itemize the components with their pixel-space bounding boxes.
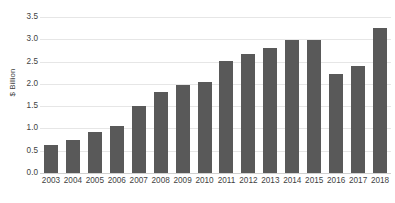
bar: [198, 82, 212, 173]
x-axis-tick: 2018: [365, 176, 395, 185]
bar: [176, 85, 190, 173]
bar-series: [40, 17, 391, 173]
bar: [219, 61, 233, 173]
y-axis-tick: 3.0: [16, 35, 38, 43]
bar: [351, 66, 365, 173]
plot-area: [40, 17, 391, 173]
bar: [44, 145, 58, 173]
bar-chart: $ Billion 0.00.51.01.52.02.53.03.5 20032…: [0, 0, 395, 203]
bar: [110, 126, 124, 173]
y-axis-tick: 2.0: [16, 80, 38, 88]
x-axis-tick-labels: 2003200420052006200720082009201020112012…: [40, 176, 391, 192]
gridline: [40, 173, 391, 174]
chart-title: [0, 0, 395, 6]
y-axis-tick: 2.5: [16, 57, 38, 65]
bar: [285, 40, 299, 173]
y-axis-tick: 0.5: [16, 147, 38, 155]
bar: [132, 106, 146, 173]
y-axis-tick-labels: 0.00.51.01.52.02.53.03.5: [0, 0, 38, 203]
bar: [373, 28, 387, 173]
bar: [329, 74, 343, 173]
y-axis-tick: 1.0: [16, 124, 38, 132]
bar: [88, 132, 102, 173]
bar: [307, 40, 321, 173]
bar: [241, 54, 255, 173]
bar: [154, 92, 168, 173]
bar: [263, 48, 277, 173]
y-axis-tick: 0.0: [16, 169, 38, 177]
bar: [66, 140, 80, 173]
y-axis-tick: 1.5: [16, 102, 38, 110]
y-axis-tick: 3.5: [16, 13, 38, 21]
